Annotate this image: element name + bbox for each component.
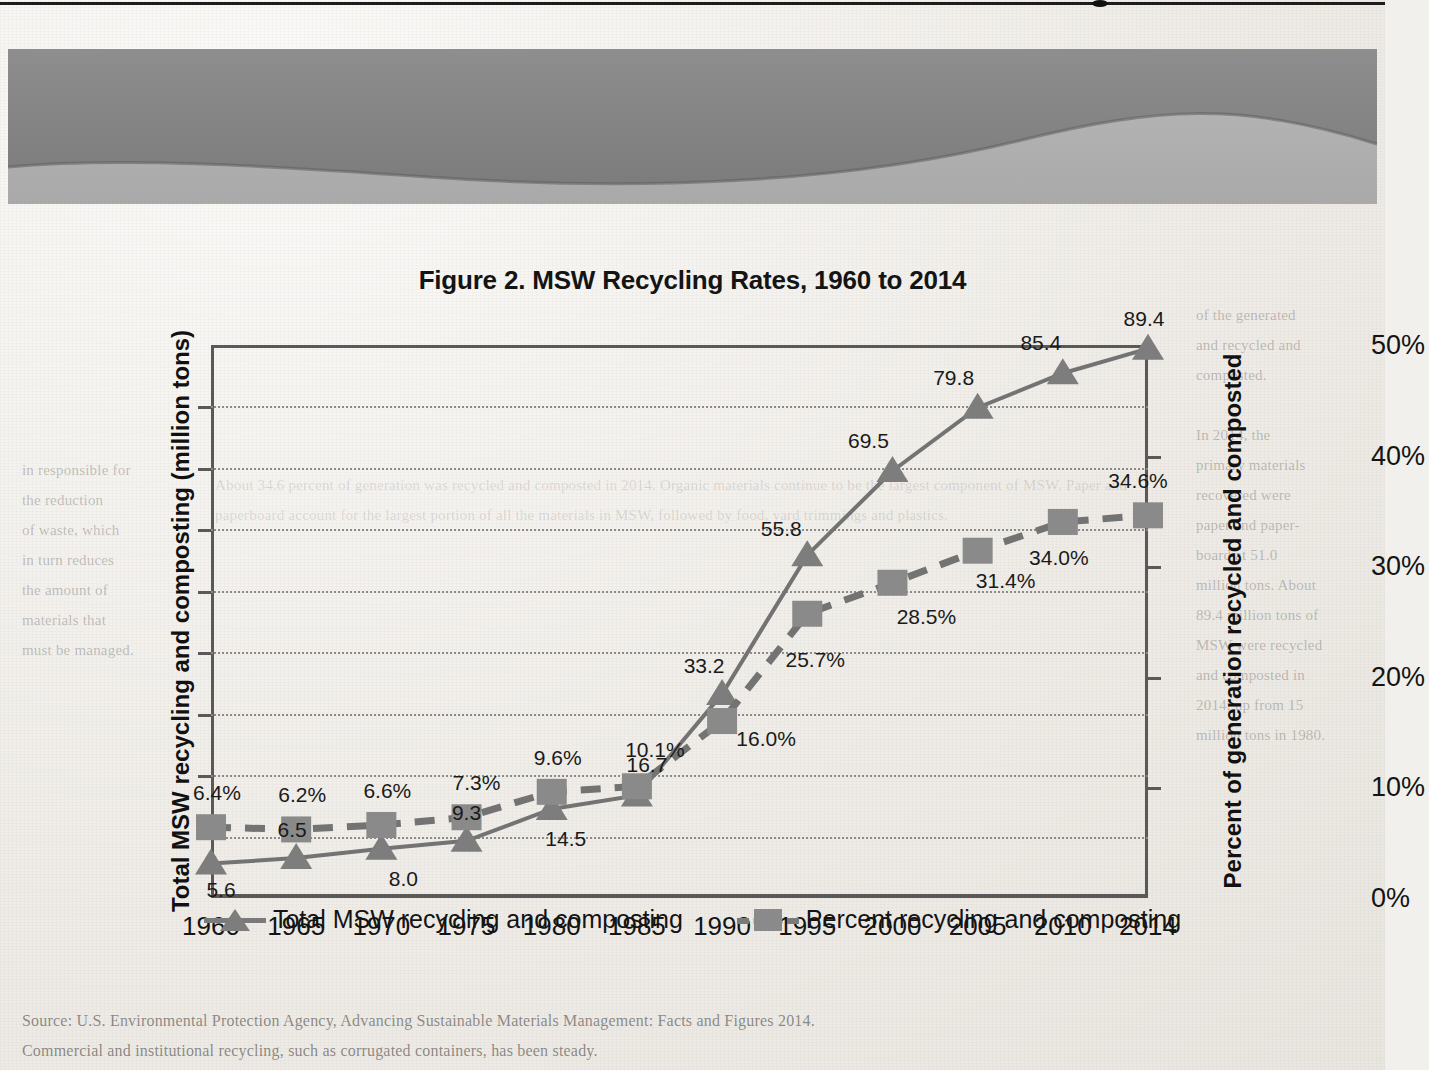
legend-label-percent: Percent recycling and composting xyxy=(806,905,1181,934)
chart-title: Figure 2. MSW Recycling Rates, 1960 to 2… xyxy=(0,265,1385,296)
decorative-wave-banner xyxy=(8,49,1377,204)
data-point-marker[interactable] xyxy=(962,393,994,419)
data-label: 6.2% xyxy=(278,783,326,807)
data-label: 31.4% xyxy=(976,569,1036,593)
data-label: 9.3 xyxy=(452,801,481,825)
data-label: 6.5 xyxy=(278,818,307,842)
data-label: 28.5% xyxy=(897,605,957,629)
data-point-marker[interactable] xyxy=(1133,502,1163,528)
data-point-marker[interactable] xyxy=(963,538,993,564)
page-top-rule xyxy=(0,2,1385,5)
y2-tick-mark xyxy=(1148,677,1161,680)
y-axis-left-title: Total MSW recycling and composting (mill… xyxy=(167,330,195,912)
data-label: 55.8 xyxy=(761,517,802,541)
y-tick-mark xyxy=(198,468,211,471)
y-axis-right-tick-label: 40% xyxy=(1371,440,1429,471)
legend-item-percent[interactable]: Percent recycling and composting xyxy=(737,905,1181,934)
data-label: 69.5 xyxy=(848,429,889,453)
y-tick-mark xyxy=(198,714,211,717)
y-axis-right-tick-label: 10% xyxy=(1371,772,1429,803)
data-label: 79.8 xyxy=(933,366,974,390)
series-line-1 xyxy=(211,349,1148,864)
y-axis-right-tick-label: 30% xyxy=(1371,551,1429,582)
triangle-marker-icon xyxy=(204,907,266,933)
y-tick-mark xyxy=(198,652,211,655)
data-label: 85.4 xyxy=(1020,331,1061,355)
data-point-marker[interactable] xyxy=(1132,334,1164,360)
series-lines xyxy=(211,345,1148,898)
data-label: 34.0% xyxy=(1029,546,1089,570)
data-point-marker[interactable] xyxy=(707,708,737,734)
data-label: 33.2 xyxy=(684,654,725,678)
data-point-marker[interactable] xyxy=(366,812,396,838)
y-tick-mark xyxy=(198,591,211,594)
data-point-marker[interactable] xyxy=(706,679,738,705)
data-label: 25.7% xyxy=(785,648,845,672)
data-point-marker[interactable] xyxy=(792,601,822,627)
y-tick-mark xyxy=(198,529,211,532)
data-point-marker[interactable] xyxy=(537,779,567,805)
data-point-marker[interactable] xyxy=(877,570,907,596)
data-label: 14.5 xyxy=(545,827,586,851)
data-label: 6.4% xyxy=(193,781,241,805)
y-tick-mark xyxy=(198,775,211,778)
data-label: 16.0% xyxy=(736,727,796,751)
data-label: 34.6% xyxy=(1108,469,1168,493)
y-axis-right-tick-label: 20% xyxy=(1371,661,1429,692)
data-point-marker[interactable] xyxy=(1048,509,1078,535)
figure-msw-recycling-rates: Figure 2. MSW Recycling Rates, 1960 to 2… xyxy=(0,265,1385,1010)
legend-label-total-msw: Total MSW recycling and composting xyxy=(273,905,683,934)
y-tick-mark xyxy=(198,406,211,409)
square-marker-icon xyxy=(737,907,799,933)
data-label: 6.6% xyxy=(363,779,411,803)
series-line-2 xyxy=(211,515,1148,829)
background-source-note: Source: U.S. Environmental Protection Ag… xyxy=(22,1006,1022,1066)
data-label: 5.6 xyxy=(206,878,235,902)
y2-tick-mark xyxy=(1148,787,1161,790)
y2-tick-mark xyxy=(1148,566,1161,569)
page-top-marker xyxy=(1092,0,1108,7)
data-label: 10.1% xyxy=(625,738,685,762)
legend-item-total-msw[interactable]: Total MSW recycling and composting xyxy=(204,905,683,934)
data-label: 7.3% xyxy=(453,771,501,795)
plot-area: 0102030405060708090 0%10%20%30%40%50% 19… xyxy=(211,345,1148,898)
data-label: 89.4 xyxy=(1124,307,1165,331)
y-axis-right-title: Percent of generation recycled and compo… xyxy=(1219,354,1247,889)
chart-legend: Total MSW recycling and composting Perce… xyxy=(0,905,1385,934)
data-point-marker[interactable] xyxy=(196,814,226,840)
data-label: 9.6% xyxy=(534,746,582,770)
y2-tick-mark xyxy=(1148,456,1161,459)
data-label: 8.0 xyxy=(389,867,418,891)
y-axis-right-tick-label: 50% xyxy=(1371,330,1429,361)
data-point-marker[interactable] xyxy=(876,456,908,482)
